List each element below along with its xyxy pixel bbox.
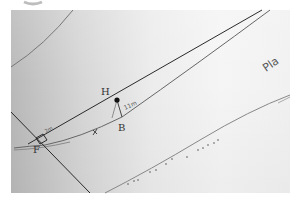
tick-mark <box>93 129 97 135</box>
right-edge-line <box>278 97 290 103</box>
upper-left-curve <box>11 10 73 67</box>
line-fh <box>28 10 262 144</box>
geometry-diagram: H B F 11m 2m Pla <box>0 0 302 206</box>
point-h-dot <box>114 97 119 102</box>
dotted-row <box>127 139 219 185</box>
label-f-length: 2m <box>44 125 54 134</box>
label-hb-length: 11m <box>122 99 137 111</box>
label-f: F <box>33 144 40 155</box>
perpendicular-line-f <box>11 112 90 193</box>
label-b: B <box>118 122 125 133</box>
corner-handwritten-text: Pla <box>260 54 281 74</box>
segment-hb <box>117 100 122 117</box>
segment-h-down <box>112 100 117 118</box>
label-h: H <box>101 86 110 97</box>
top-arc-shape <box>24 2 42 4</box>
